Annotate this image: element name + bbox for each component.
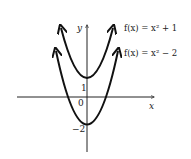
curve-upper-label: f(x) = x² + 1	[124, 23, 177, 33]
tick-neg2: −2	[72, 124, 85, 134]
tick-1: 1	[81, 83, 87, 93]
axis-y-label: y	[76, 23, 83, 33]
curve-lower-label: f(x) = x² − 2	[124, 48, 177, 58]
tick-0: 0	[78, 98, 84, 108]
axis-x-label: x	[149, 101, 154, 111]
parabola-chart: 1 0 −2 y x f(x) = x² + 1 f(x) = x² − 2	[0, 0, 191, 159]
